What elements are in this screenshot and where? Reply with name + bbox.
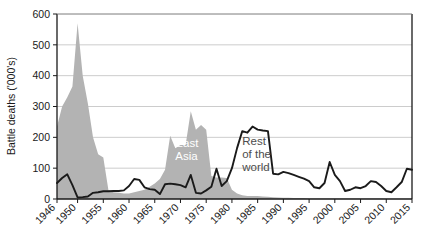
annotation-rest-of-the-world-line-1: of the: [242, 148, 271, 160]
x-tick-label-1990: 1990: [259, 201, 284, 226]
y-tick-label-300: 300: [32, 100, 50, 112]
x-tick-label-1955: 1955: [79, 201, 104, 226]
x-tick-label-1975: 1975: [182, 201, 207, 226]
y-tick-label-500: 500: [32, 39, 50, 51]
y-tick-label-400: 400: [32, 69, 50, 81]
y-tick-label-600: 600: [32, 8, 50, 20]
x-tick-label-1950: 1950: [53, 201, 78, 226]
x-tick-label-1960: 1960: [104, 201, 129, 226]
x-tick-label-2000: 2000: [310, 201, 335, 226]
annotation-rest-of-the-world-line-2: world: [241, 161, 269, 173]
x-tick-label-2010: 2010: [362, 201, 387, 226]
x-tick-label-1995: 1995: [285, 201, 310, 226]
x-tick-label-1985: 1985: [233, 201, 258, 226]
x-tick-label-1946: 1946: [32, 201, 57, 226]
annotation-rest-of-the-world-line-0: Rest: [242, 135, 266, 147]
annotation-east-asia-line-0: East: [175, 137, 199, 149]
y-tick-label-100: 100: [32, 162, 50, 174]
annotation-east-asia-line-1: Asia: [175, 150, 198, 162]
x-axis-tick-labels: 1946195019551960196519701975198019851990…: [32, 201, 412, 226]
x-tick-label-1980: 1980: [207, 201, 232, 226]
x-tick-label-2005: 2005: [336, 201, 361, 226]
battle-deaths-chart: 0100200300400500600 19461950195519601965…: [0, 0, 431, 248]
x-tick-label-1965: 1965: [130, 201, 155, 226]
y-axis-title: Battle deaths ('000's): [5, 57, 17, 155]
y-tick-label-200: 200: [32, 131, 50, 143]
y-axis-tick-labels: 0100200300400500600: [32, 8, 50, 205]
x-tick-label-1970: 1970: [156, 201, 181, 226]
y-axis-title-text: Battle deaths ('000's): [5, 57, 17, 155]
x-tick-label-2015: 2015: [387, 201, 412, 226]
chart-canvas: 0100200300400500600 19461950195519601965…: [0, 0, 431, 248]
